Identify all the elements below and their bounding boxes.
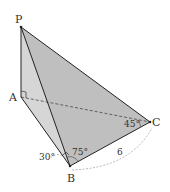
length-label-bc: 6	[117, 147, 123, 157]
vertex-b	[69, 165, 72, 168]
angle-label-75: 75°	[72, 147, 88, 157]
vertex-p	[20, 26, 23, 29]
label-p: P	[15, 13, 23, 26]
label-a: A	[8, 91, 18, 104]
angle-label-30: 30°	[39, 152, 55, 162]
label-c: C	[152, 116, 160, 129]
label-b: B	[67, 172, 75, 185]
tetrahedron-diagram: P A B C 30° 75° 45° 6	[0, 0, 170, 192]
angle-label-45: 45°	[124, 119, 140, 129]
vertex-c	[149, 121, 152, 124]
